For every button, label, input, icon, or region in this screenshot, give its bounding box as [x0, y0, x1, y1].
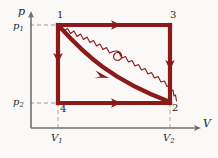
isotherm-curve-1-to-2 [59, 26, 170, 102]
point-label-4: 4 [60, 104, 66, 114]
irreversible-wavy-path [60, 27, 177, 101]
pv-diagram-canvas [0, 0, 218, 158]
point-label-2: 2 [172, 103, 178, 113]
point-label-3: 3 [170, 10, 176, 20]
x-axis-label: V [203, 118, 211, 129]
axes [28, 11, 201, 131]
x-tick-v2-sub: 2 [170, 137, 174, 145]
x-tick-label-v2: V2 [163, 133, 175, 144]
y-axis-label: p [18, 6, 25, 17]
x-tick-v1-sub: 1 [58, 137, 62, 145]
pv-diagram-figure: p V p1 p2 V1 V2 1 2 3 4 [0, 0, 218, 158]
x-tick-label-v1: V1 [51, 133, 63, 144]
y-tick-label-p1: p1 [13, 21, 24, 32]
y-tick-p1-sub: 1 [19, 25, 23, 33]
y-tick-p2-sub: 2 [19, 101, 23, 109]
cycle-rectangle [58, 25, 170, 103]
y-tick-label-p2: p2 [13, 97, 24, 108]
point-label-1: 1 [57, 10, 63, 20]
